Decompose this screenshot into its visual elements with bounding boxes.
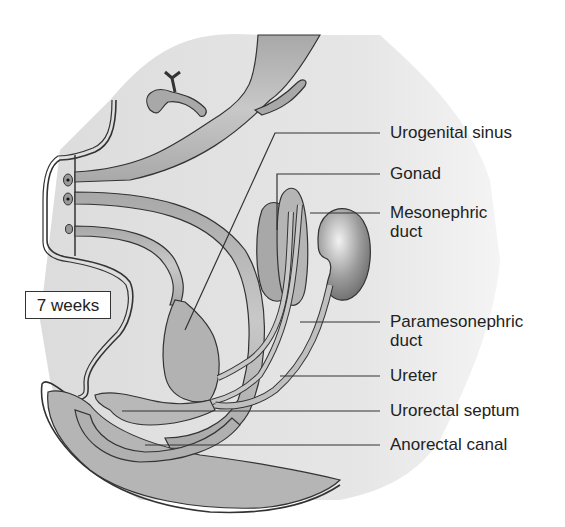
label-ureter: Ureter: [390, 366, 437, 385]
stage-label-box: 7 weeks: [25, 291, 111, 319]
label-paramesonephric-duct: Paramesonephric duct: [390, 312, 523, 350]
label-urorectal-septum: Urorectal septum: [390, 401, 519, 420]
label-mesonephric-duct: Mesonephric duct: [390, 203, 487, 241]
label-gonad: Gonad: [390, 164, 441, 183]
label-anorectal-canal: Anorectal canal: [390, 435, 507, 454]
label-urogenital-sinus: Urogenital sinus: [390, 123, 512, 142]
